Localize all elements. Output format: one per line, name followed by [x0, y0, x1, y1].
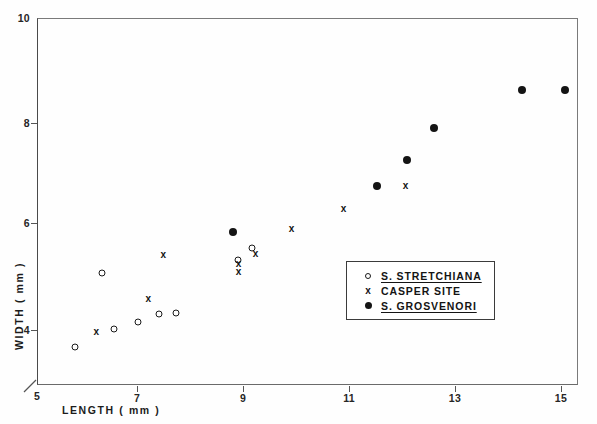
- data-point: x: [251, 247, 260, 258]
- cross-icon: x: [355, 285, 381, 296]
- data-point: x: [339, 203, 348, 214]
- data-point: [156, 310, 163, 317]
- y-axis-tick-label: 10: [14, 12, 30, 24]
- origin-tick-label: 5: [34, 390, 40, 402]
- legend-item-label: S. GROSVENORI: [381, 300, 477, 312]
- data-point: x: [287, 223, 296, 234]
- data-point: x: [159, 248, 168, 259]
- data-point: [518, 86, 526, 94]
- data-point: [373, 182, 381, 190]
- legend-item-stretchiana: S. STRETCHIANA: [355, 268, 482, 283]
- legend-item-label: CASPER SITE: [381, 285, 461, 297]
- x-axis-tick-label: 9: [240, 392, 246, 404]
- data-point: x: [144, 292, 153, 303]
- x-axis-tick-label: 13: [449, 392, 461, 404]
- data-point: [72, 344, 79, 351]
- x-axis-tick-label: 15: [555, 392, 567, 404]
- data-point: [403, 156, 411, 164]
- legend-item-label: S. STRETCHIANA: [381, 270, 482, 282]
- x-axis-tick-label: 7: [134, 392, 140, 404]
- data-point: [110, 325, 117, 332]
- filled-circle-icon: [355, 300, 381, 311]
- x-axis-tick-label: 11: [343, 392, 355, 404]
- data-point: x: [401, 180, 410, 191]
- data-point: [229, 228, 237, 236]
- data-point: x: [92, 326, 101, 337]
- data-point: [561, 86, 569, 94]
- y-axis-tick: [31, 330, 37, 331]
- y-axis-tick-label: 8: [14, 117, 30, 129]
- legend-box: S. STRETCHIANA x CASPER SITE S. GROSVENO…: [346, 261, 495, 320]
- y-axis-tick: [31, 123, 37, 124]
- data-point: x: [234, 265, 243, 276]
- data-point: [134, 319, 141, 326]
- legend-item-casper-site: x CASPER SITE: [355, 283, 482, 298]
- legend-item-grosvenori: S. GROSVENORI: [355, 298, 482, 313]
- plot-area-frame: [37, 18, 578, 385]
- data-point: [173, 309, 180, 316]
- y-axis-title: WIDTH ( mm ): [13, 246, 25, 366]
- x-axis-title: LENGTH ( mm ): [62, 404, 160, 416]
- data-point: [430, 124, 438, 132]
- scatter-plot-figure: 5 7 9 11 13 15 4 6 8 10 LENGTH ( mm ) WI…: [0, 0, 597, 424]
- y-axis-tick-label: 6: [14, 217, 30, 229]
- open-circle-icon: [355, 270, 381, 281]
- data-point: [98, 269, 105, 276]
- y-axis-tick: [31, 223, 37, 224]
